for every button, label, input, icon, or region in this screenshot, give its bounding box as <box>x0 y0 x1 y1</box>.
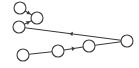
nodes-layer <box>13 2 133 61</box>
graph-node-D <box>121 35 133 47</box>
directed-graph <box>0 0 139 68</box>
edge-D-C <box>25 28 121 40</box>
arrowhead-icon <box>69 32 72 36</box>
graph-node-E <box>83 40 95 52</box>
graph-node-G <box>17 49 29 61</box>
graph-node-B <box>31 12 43 24</box>
graph-node-A <box>14 2 26 14</box>
graph-node-C <box>13 21 25 33</box>
graph-canvas <box>0 0 139 68</box>
graph-node-F <box>52 45 64 57</box>
edge-G-F <box>29 52 52 55</box>
edge-E-D <box>95 42 121 45</box>
